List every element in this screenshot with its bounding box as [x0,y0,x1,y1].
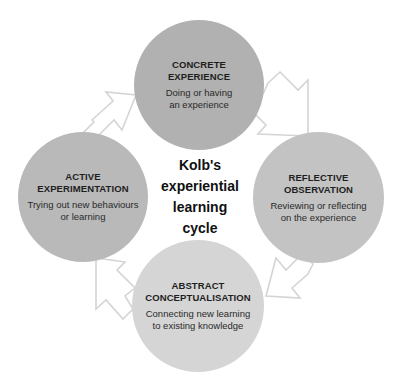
stage-description-line: Connecting new learning [146,308,251,319]
stage-description-line: Reviewing or reflecting [270,200,366,211]
stage-description: Doing or having an experience [166,87,233,111]
arrow-icon-abstract-to-active [96,258,135,319]
diagram-title-line: learning [140,197,260,218]
stage-abstract-conceptualisation: ABSTRACT CONCEPTUALISATION Connecting ne… [132,240,264,372]
stage-title-line: EXPERIMENTATION [37,183,128,194]
stage-reflective-observation: REFLECTIVE OBSERVATION Reviewing or refl… [253,132,384,263]
diagram-title-line: Kolb's [140,155,260,176]
diagram-title-line: cycle [140,218,260,239]
stage-title: ACTIVE EXPERIMENTATION [37,171,128,195]
stage-description-line: to existing knowledge [153,320,244,331]
stage-description-line: Doing or having [166,87,233,98]
stage-description: Connecting new learning to existing know… [146,308,251,332]
diagram-title: Kolb's experiential learning cycle [140,155,260,239]
stage-description-line: an experience [169,99,229,110]
stage-title: REFLECTIVE OBSERVATION [284,172,353,196]
stage-title-line: CONCEPTUALISATION [145,292,251,303]
kolb-cycle-diagram: CONCRETE EXPERIENCE Doing or having an e… [0,0,395,384]
stage-title-line: EXPERIENCE [168,71,230,82]
stage-title: CONCRETE EXPERIENCE [168,59,230,83]
stage-title-line: ACTIVE [65,171,100,182]
diagram-title-line: experiential [140,176,260,197]
stage-title-line: CONCRETE [172,59,226,70]
stage-description-line: Trying out new behaviours [27,199,138,210]
stage-active-experimentation: ACTIVE EXPERIMENTATION Trying out new be… [18,132,148,262]
stage-description-line: or learning [61,211,106,222]
stage-description: Reviewing or reflecting on the experienc… [270,200,366,224]
stage-description: Trying out new behaviours or learning [27,199,138,223]
stage-description-line: on the experience [281,212,357,223]
stage-title-line: ABSTRACT [171,280,224,291]
stage-title-line: OBSERVATION [284,184,353,195]
stage-title-line: REFLECTIVE [288,172,348,183]
stage-title: ABSTRACT CONCEPTUALISATION [145,280,251,304]
stage-concrete-experience: CONCRETE EXPERIENCE Doing or having an e… [134,20,264,150]
